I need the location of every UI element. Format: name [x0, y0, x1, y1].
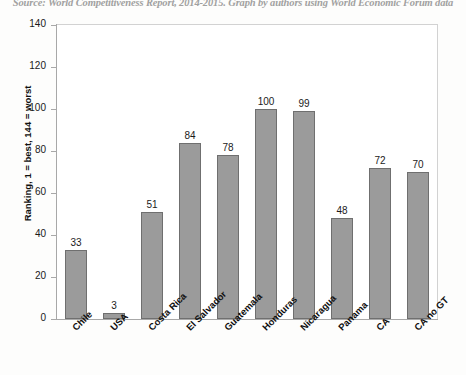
- bar-group[interactable]: 51: [141, 25, 163, 319]
- y-tick-mark: [51, 25, 56, 26]
- y-tick-mark: [51, 193, 56, 194]
- y-tick-label: 80: [18, 144, 46, 155]
- bar-value-label: 70: [412, 159, 423, 170]
- y-tick-mark: [51, 235, 56, 236]
- y-tick-mark: [51, 67, 56, 68]
- bar-group[interactable]: 99: [293, 25, 315, 319]
- bar-group[interactable]: 72: [369, 25, 391, 319]
- bar-group[interactable]: 78: [217, 25, 239, 319]
- bar[interactable]: [369, 168, 391, 319]
- bar-group[interactable]: 48: [331, 25, 353, 319]
- bar-group[interactable]: 3: [103, 25, 125, 319]
- bar-value-label: 100: [258, 96, 275, 107]
- bar[interactable]: [407, 172, 429, 319]
- bar-group[interactable]: 33: [65, 25, 87, 319]
- y-tick-label: 40: [18, 228, 46, 239]
- bar-value-label: 78: [222, 142, 233, 153]
- bar-value-label: 99: [298, 98, 309, 109]
- bar-value-label: 51: [146, 199, 157, 210]
- y-tick-label: 60: [18, 186, 46, 197]
- bar-value-label: 84: [184, 130, 195, 141]
- bar[interactable]: [141, 212, 163, 319]
- chart-page: Source: World Competitiveness Report, 20…: [0, 0, 466, 375]
- y-tick-mark: [51, 151, 56, 152]
- bar[interactable]: [255, 109, 277, 319]
- y-tick-mark: [51, 109, 56, 110]
- y-tick-label: 100: [18, 102, 46, 113]
- y-tick-label: 20: [18, 270, 46, 281]
- bar-value-label: 3: [111, 300, 117, 311]
- bar-value-label: 48: [336, 205, 347, 216]
- y-tick-label: 0: [18, 312, 46, 323]
- bars-container: 33351847810099487270: [57, 25, 437, 319]
- bar-value-label: 33: [70, 237, 81, 248]
- bar-group[interactable]: 70: [407, 25, 429, 319]
- y-tick-label: 140: [18, 18, 46, 29]
- y-tick-label: 120: [18, 60, 46, 71]
- y-tick-mark: [51, 319, 56, 320]
- bar-value-label: 72: [374, 155, 385, 166]
- source-caption: Source: World Competitiveness Report, 20…: [0, 0, 466, 9]
- bar[interactable]: [65, 250, 87, 319]
- y-tick-mark: [51, 277, 56, 278]
- bar-group[interactable]: 100: [255, 25, 277, 319]
- bar[interactable]: [293, 111, 315, 319]
- bar-group[interactable]: 84: [179, 25, 201, 319]
